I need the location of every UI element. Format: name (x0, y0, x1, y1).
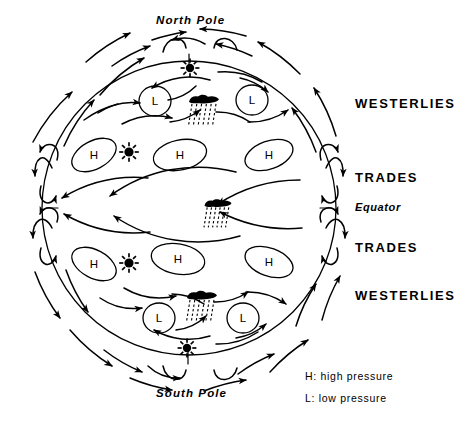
north-pole-label: North Pole (156, 14, 225, 26)
high-pressure-cell: H (66, 240, 122, 287)
high-pressure-cell: H (149, 240, 207, 279)
surface-wind-arrows (62, 72, 302, 344)
sun-icon (119, 253, 139, 273)
equator-label: Equator (355, 201, 401, 213)
wind-circulation-diagram: HHHHHH LLLL North Pole South Pole WESTER… (0, 0, 469, 421)
high-pressure-cell: H (66, 131, 122, 178)
south-pole-label: South Pole (156, 387, 227, 399)
sun-icon (119, 142, 139, 162)
high-pressure-letter: H (174, 253, 182, 265)
high-pressure-letter: H (265, 149, 273, 161)
high-pressure-letter: H (90, 258, 98, 270)
rain-cloud-icon (186, 291, 217, 323)
south-westerlies-label: WESTERLIES (355, 288, 456, 303)
high-pressure-letter: H (90, 149, 98, 161)
high-pressure-cell: H (241, 240, 298, 283)
rain-cloud-icon (188, 95, 219, 127)
low-pressure-cell: L (139, 86, 171, 116)
low-pressure-cell: L (227, 303, 259, 333)
high-pressure-letter: H (265, 256, 273, 268)
legend-low-pressure: L: low pressure (305, 392, 387, 404)
high-pressure-cell: H (241, 133, 298, 176)
north-westerlies-label: WESTERLIES (355, 96, 456, 111)
legend-high-pressure: H: high pressure (305, 370, 393, 382)
rain-cloud-icon (204, 199, 232, 227)
low-pressure-letter: L (156, 312, 163, 324)
north-trades-label: TRADES (355, 170, 418, 185)
high-pressure-cells: HHHHHH (66, 131, 297, 287)
sun-icon (181, 59, 200, 78)
globe-outline (42, 61, 336, 355)
sun-icon (178, 339, 197, 358)
low-pressure-letter: L (249, 94, 256, 106)
rain-cloud-symbols (186, 95, 231, 323)
south-trades-label: TRADES (355, 240, 418, 255)
low-pressure-cell: L (236, 85, 268, 115)
low-pressure-cell: L (143, 303, 175, 333)
high-pressure-letter: H (176, 149, 184, 161)
low-pressure-letter: L (152, 95, 159, 107)
high-pressure-cell: H (150, 135, 209, 176)
outer-upper-level-arrows (33, 29, 340, 391)
low-pressure-letter: L (240, 312, 247, 324)
